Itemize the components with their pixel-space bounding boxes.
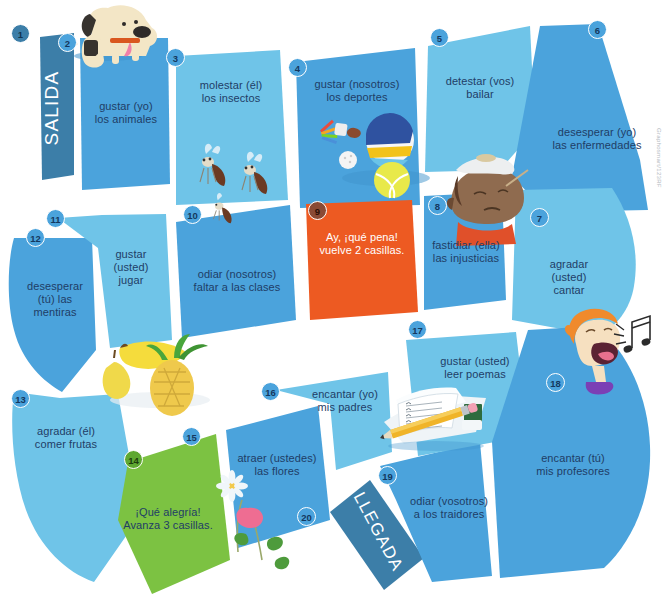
badge-12[interactable]: 12: [26, 228, 45, 247]
badge-6[interactable]: 6: [588, 20, 607, 39]
tile-12[interactable]: [9, 238, 96, 392]
tile-6[interactable]: [512, 24, 648, 212]
badge-13[interactable]: 13: [11, 389, 30, 408]
badge-7[interactable]: 7: [530, 208, 549, 227]
tile-7[interactable]: [512, 188, 636, 336]
badge-17[interactable]: 17: [408, 320, 427, 339]
badge-8[interactable]: 8: [428, 196, 447, 215]
badge-20[interactable]: 20: [297, 507, 316, 526]
watermark-credit: Graphosmart/123RF: [656, 128, 662, 188]
board-game: SALIDA gustar (yo) los animales molestar…: [0, 0, 663, 602]
badge-3[interactable]: 3: [166, 48, 185, 67]
badge-15[interactable]: 15: [182, 427, 201, 446]
badge-16[interactable]: 16: [261, 382, 280, 401]
badge-4[interactable]: 4: [288, 58, 307, 77]
tile-13[interactable]: [12, 392, 140, 582]
tile-3[interactable]: [176, 50, 288, 205]
badge-11[interactable]: 11: [46, 209, 65, 228]
badge-14[interactable]: 14: [124, 450, 143, 469]
badge-2[interactable]: 2: [58, 33, 77, 52]
tile-1-start[interactable]: [40, 33, 74, 180]
badge-18[interactable]: 18: [546, 373, 565, 392]
tile-10[interactable]: [176, 205, 296, 338]
badge-1[interactable]: 1: [11, 24, 30, 43]
badge-10[interactable]: 10: [183, 205, 202, 224]
badge-9[interactable]: 9: [308, 201, 327, 220]
board-tiles-layer: [0, 0, 663, 602]
badge-5[interactable]: 5: [430, 28, 449, 47]
badge-19[interactable]: 19: [378, 466, 397, 485]
